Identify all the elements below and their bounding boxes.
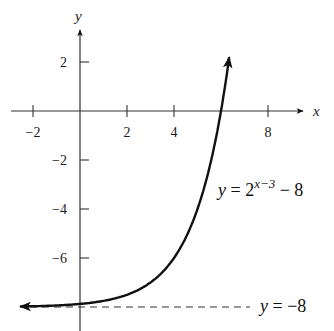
exponential-function-graph: −22482−2−4−6 x y y = 2x−3 − 8 y = −8 [0, 0, 334, 331]
y-tick-label: −4 [52, 202, 67, 217]
curve-equation-label: y = 2x−3 − 8 [216, 176, 303, 200]
y-tick-label: −6 [52, 251, 67, 266]
x-tick-label: 2 [124, 125, 131, 140]
y-tick-label: 2 [60, 55, 67, 70]
x-tick-label: 8 [265, 125, 272, 140]
asymptote-equation-label: y = −8 [258, 296, 306, 316]
labels: x y y = 2x−3 − 8 y = −8 [73, 8, 320, 316]
x-axis-label: x [312, 103, 320, 119]
ticks: −22482−2−4−6 [26, 55, 272, 266]
x-tick-label: 4 [171, 125, 178, 140]
y-axis-label: y [73, 8, 82, 24]
y-tick-label: −2 [52, 153, 67, 168]
x-tick-label: −2 [26, 125, 41, 140]
function-curve [20, 57, 229, 306]
